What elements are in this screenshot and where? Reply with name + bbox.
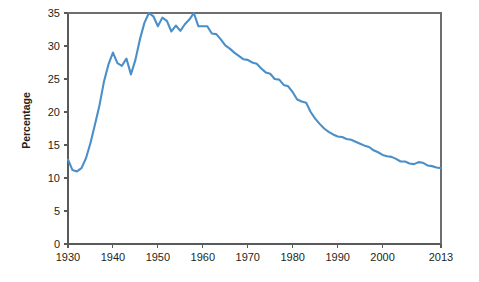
axis-ticks bbox=[64, 13, 441, 248]
axes bbox=[68, 13, 441, 244]
x-tick-label: 1930 bbox=[56, 251, 80, 263]
axis-titles: Percentage bbox=[20, 92, 32, 149]
x-tick-label: 1970 bbox=[236, 251, 260, 263]
y-tick-label: 35 bbox=[48, 7, 60, 19]
axis-left-bottom bbox=[68, 13, 441, 244]
y-tick-label: 25 bbox=[48, 73, 60, 85]
y-tick-label: 30 bbox=[48, 40, 60, 52]
chart-container: 0510152025303519301940195019601970198019… bbox=[0, 0, 479, 282]
y-tick-label: 15 bbox=[48, 139, 60, 151]
series-line-percentage bbox=[68, 13, 441, 171]
x-tick-label: 1950 bbox=[146, 251, 170, 263]
y-tick-label: 0 bbox=[54, 238, 60, 250]
line-chart: 0510152025303519301940195019601970198019… bbox=[0, 0, 479, 282]
axis-tick-labels: 0510152025303519301940195019601970198019… bbox=[48, 7, 453, 263]
y-tick-label: 10 bbox=[48, 172, 60, 184]
y-axis-title: Percentage bbox=[20, 92, 32, 149]
y-tick-label: 5 bbox=[54, 205, 60, 217]
x-tick-label: 2000 bbox=[370, 251, 394, 263]
x-tick-label: 2013 bbox=[429, 251, 453, 263]
x-tick-label: 1960 bbox=[191, 251, 215, 263]
x-tick-label: 1980 bbox=[280, 251, 304, 263]
x-tick-label: 1990 bbox=[325, 251, 349, 263]
x-tick-label: 1940 bbox=[101, 251, 125, 263]
y-tick-label: 20 bbox=[48, 106, 60, 118]
data-series bbox=[68, 13, 441, 171]
axis-top-right bbox=[68, 13, 441, 244]
